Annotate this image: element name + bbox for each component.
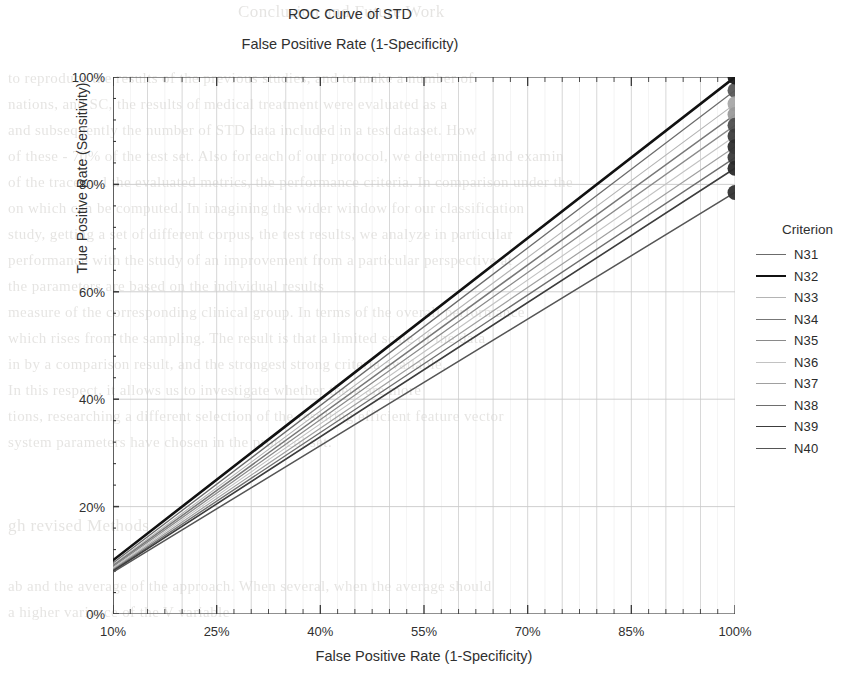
legend-line-swatch [756,340,786,341]
x-tick-label: 55% [389,624,459,639]
legend-item-n31[interactable]: N31 [756,244,861,266]
legend-item-label: N37 [794,376,818,391]
legend-item-n39[interactable]: N39 [756,416,861,438]
x-tick-label: 100% [700,624,770,639]
legend-line-swatch [756,275,786,277]
legend-line-swatch [756,426,786,427]
legend-item-n37[interactable]: N37 [756,373,861,395]
legend-line-swatch [756,405,786,406]
legend-line-swatch [756,383,786,384]
x-tick-label: 40% [285,624,355,639]
legend-item-n33[interactable]: N33 [756,287,861,309]
legend-item-n32[interactable]: N32 [756,266,861,288]
legend-item-n38[interactable]: N38 [756,395,861,417]
x-tick-label: 70% [493,624,563,639]
legend-item-label: N38 [794,398,818,413]
endpoint-marker-n39 [728,161,736,176]
chart-subtitle: False Positive Rate (1-Specificity) [0,36,700,52]
legend-item-n35[interactable]: N35 [756,330,861,352]
y-tick-label: 0% [43,607,105,622]
legend-item-n40[interactable]: N40 [756,438,861,460]
x-tick-label: 25% [182,624,252,639]
legend-item-label: N33 [794,290,818,305]
y-tick-label: 20% [43,499,105,514]
y-tick-label: 40% [43,392,105,407]
legend-line-swatch [756,254,786,255]
legend-title: Criterion [782,222,861,237]
y-axis-label: True Positive Rate (Sensitivity) [74,48,90,308]
legend-line-swatch [756,362,786,363]
legend-item-label: N35 [794,333,818,348]
legend-item-n36[interactable]: N36 [756,352,861,374]
legend-item-n34[interactable]: N34 [756,309,861,331]
x-tick-label: 85% [596,624,666,639]
legend: Criterion N31N32N33N34N35N36N37N38N39N40 [756,222,861,459]
legend-item-label: N36 [794,355,818,370]
endpoint-marker-n40 [728,185,736,200]
legend-item-label: N40 [794,441,818,456]
legend-item-label: N32 [794,269,818,284]
plot-area [113,77,735,614]
chart-title: ROC Curve of STD [0,6,700,22]
legend-item-label: N31 [794,247,818,262]
roc-plot-svg [113,77,735,614]
legend-items: N31N32N33N34N35N36N37N38N39N40 [756,244,861,459]
legend-item-label: N39 [794,419,818,434]
legend-line-swatch [756,319,786,320]
legend-item-label: N34 [794,312,818,327]
legend-line-swatch [756,297,786,298]
legend-line-swatch [756,448,786,449]
x-axis-label: False Positive Rate (1-Specificity) [113,648,735,664]
x-tick-label: 10% [78,624,148,639]
roc-chart-figure: ROC Curve of STD False Positive Rate (1-… [0,0,867,687]
